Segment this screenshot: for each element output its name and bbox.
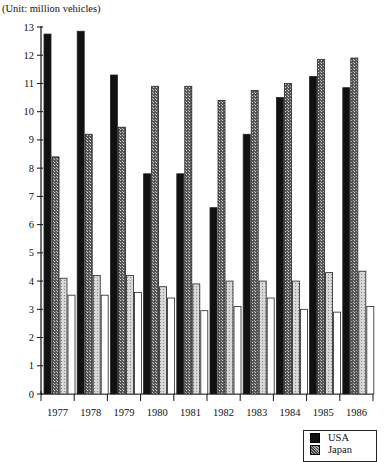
x-tick-label: 1983	[246, 407, 267, 418]
legend: USA Japan	[303, 430, 377, 462]
bars	[44, 31, 374, 394]
bar-japan-1978	[85, 134, 92, 394]
x-tick-label: 1986	[346, 407, 367, 418]
bar-japan-1979	[118, 127, 125, 394]
bar-japan-1980	[152, 86, 159, 394]
bar-series-1986	[359, 271, 366, 394]
bar-usa-1986	[343, 88, 350, 394]
bar-series-1977	[68, 295, 75, 394]
bar-series-1978	[101, 295, 108, 394]
bar-series-1978	[93, 275, 100, 394]
bar-series-1981	[193, 284, 200, 394]
y-tick-label: 12	[24, 50, 35, 61]
bar-usa-1980	[144, 174, 151, 394]
bar-usa-1985	[310, 76, 317, 394]
bar-series-1983	[267, 298, 274, 394]
bar-series-1984	[292, 281, 299, 394]
x-tick-label: 1984	[280, 407, 302, 418]
bar-usa-1978	[77, 31, 84, 394]
bar-japan-1985	[318, 59, 325, 394]
y-tick-label: 9	[29, 134, 34, 145]
y-tick-label: 6	[29, 219, 34, 230]
legend-item-japan: Japan	[310, 444, 376, 455]
bar-usa-1981	[177, 174, 184, 394]
y-tick-label: 13	[24, 22, 35, 33]
bar-series-1979	[126, 275, 133, 394]
bar-japan-1984	[284, 83, 291, 394]
x-tick-label: 1981	[180, 407, 201, 418]
x-tick-label: 1977	[47, 407, 68, 418]
legend-item-usa: USA	[310, 432, 376, 443]
bar-japan-1986	[351, 58, 358, 394]
bar-japan-1981	[185, 86, 192, 394]
bar-series-1982	[234, 306, 241, 394]
bar-japan-1977	[52, 157, 59, 394]
bar-series-1981	[201, 311, 208, 394]
bar-japan-1982	[218, 100, 225, 394]
bar-series-1985	[326, 273, 333, 394]
bar-series-1980	[160, 287, 167, 394]
bar-series-1982	[226, 281, 233, 394]
y-tick-label: 8	[29, 163, 34, 174]
x-tick-label: 1982	[213, 407, 234, 418]
bar-series-1984	[300, 309, 307, 394]
legend-label-usa: USA	[328, 432, 349, 443]
bar-usa-1983	[243, 134, 250, 394]
bar-series-1986	[367, 306, 374, 394]
japan-swatch-icon	[310, 445, 320, 455]
y-tick-label: 7	[29, 191, 34, 202]
x-tick-label: 1985	[313, 407, 334, 418]
x-tick-label: 1978	[80, 407, 101, 418]
bar-usa-1984	[276, 98, 283, 394]
bar-series-1983	[259, 281, 266, 394]
y-tick-label: 3	[29, 304, 34, 315]
bar-usa-1979	[110, 75, 117, 394]
legend-label-japan: Japan	[328, 444, 352, 455]
y-tick-label: 1	[29, 360, 34, 371]
bar-usa-1982	[210, 208, 217, 394]
y-tick-label: 11	[24, 78, 34, 89]
x-tick-label: 1979	[114, 407, 135, 418]
bar-series-1980	[168, 298, 175, 394]
bar-series-1985	[334, 312, 341, 394]
y-tick-label: 10	[24, 106, 35, 117]
x-tick-label: 1980	[147, 407, 168, 418]
bar-series-1977	[60, 278, 67, 394]
bar-series-1979	[134, 292, 141, 394]
y-tick-label: 5	[29, 247, 34, 258]
usa-swatch-icon	[310, 433, 320, 443]
y-tick-label: 4	[29, 276, 35, 287]
y-tick-label: 2	[29, 332, 34, 343]
bar-japan-1983	[251, 91, 258, 394]
bar-usa-1977	[44, 34, 51, 394]
y-tick-label: 0	[29, 389, 34, 400]
